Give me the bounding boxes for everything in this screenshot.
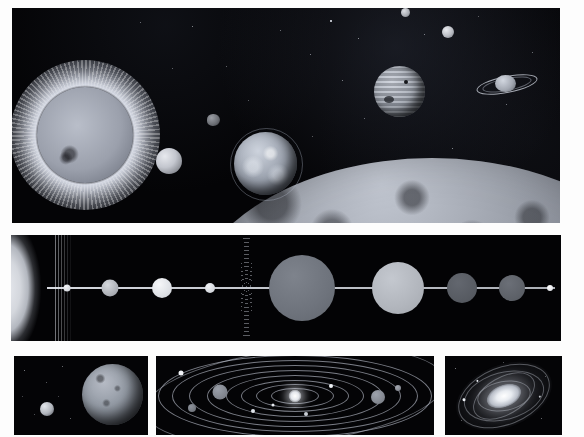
sun-disc [37, 87, 133, 183]
jupiter-marker [212, 385, 227, 400]
sun-limb [11, 235, 67, 341]
uranus-size-marker [447, 273, 477, 303]
sun [12, 60, 160, 210]
plate-background [0, 0, 584, 437]
jupiter-planet [374, 66, 425, 117]
jupiter-moon-shadow [404, 80, 408, 84]
mercury-planet [156, 148, 182, 174]
neptune-size-marker [499, 275, 525, 301]
jupiter-size-marker [269, 255, 335, 321]
galaxy-bright-knot-1 [462, 397, 466, 401]
galaxy-bright-knot-2 [476, 379, 479, 382]
asteroid-belt-band [241, 237, 252, 337]
saturn-size-marker [372, 262, 424, 314]
jupiter-great-red-spot [384, 96, 394, 103]
pluto-size-marker [547, 285, 553, 291]
mars-marker [304, 412, 308, 416]
earth-marker [251, 409, 255, 413]
galaxy-bright-knot-3 [538, 395, 541, 398]
mercury-size-marker [64, 285, 71, 292]
earth-planet [234, 132, 297, 195]
saturn-body [495, 75, 516, 92]
saturn-planet [476, 70, 536, 96]
distant-moon-object [401, 8, 410, 17]
spiral-galaxy [445, 356, 562, 435]
asteroid-object [207, 114, 220, 126]
venus-marker [329, 384, 333, 388]
space-scene-panel [12, 8, 560, 223]
saturn-marker [371, 390, 385, 404]
pluto-charon-panel [14, 356, 148, 435]
venus-size-marker [102, 280, 119, 297]
pluto-planet [82, 364, 143, 425]
mars-size-marker [205, 283, 215, 293]
moon-object [442, 26, 454, 38]
mercury-marker [271, 403, 274, 406]
orbit-sun-center [289, 389, 302, 402]
spiral-galaxy-panel [445, 356, 562, 435]
neptune-marker [395, 385, 401, 391]
planet-size-comparison-panel [11, 235, 561, 341]
earth-size-marker [152, 278, 172, 298]
pluto-marker [179, 371, 184, 376]
orbital-diagram-panel [156, 356, 434, 435]
charon-moon [40, 402, 54, 416]
uranus-marker [188, 404, 196, 412]
